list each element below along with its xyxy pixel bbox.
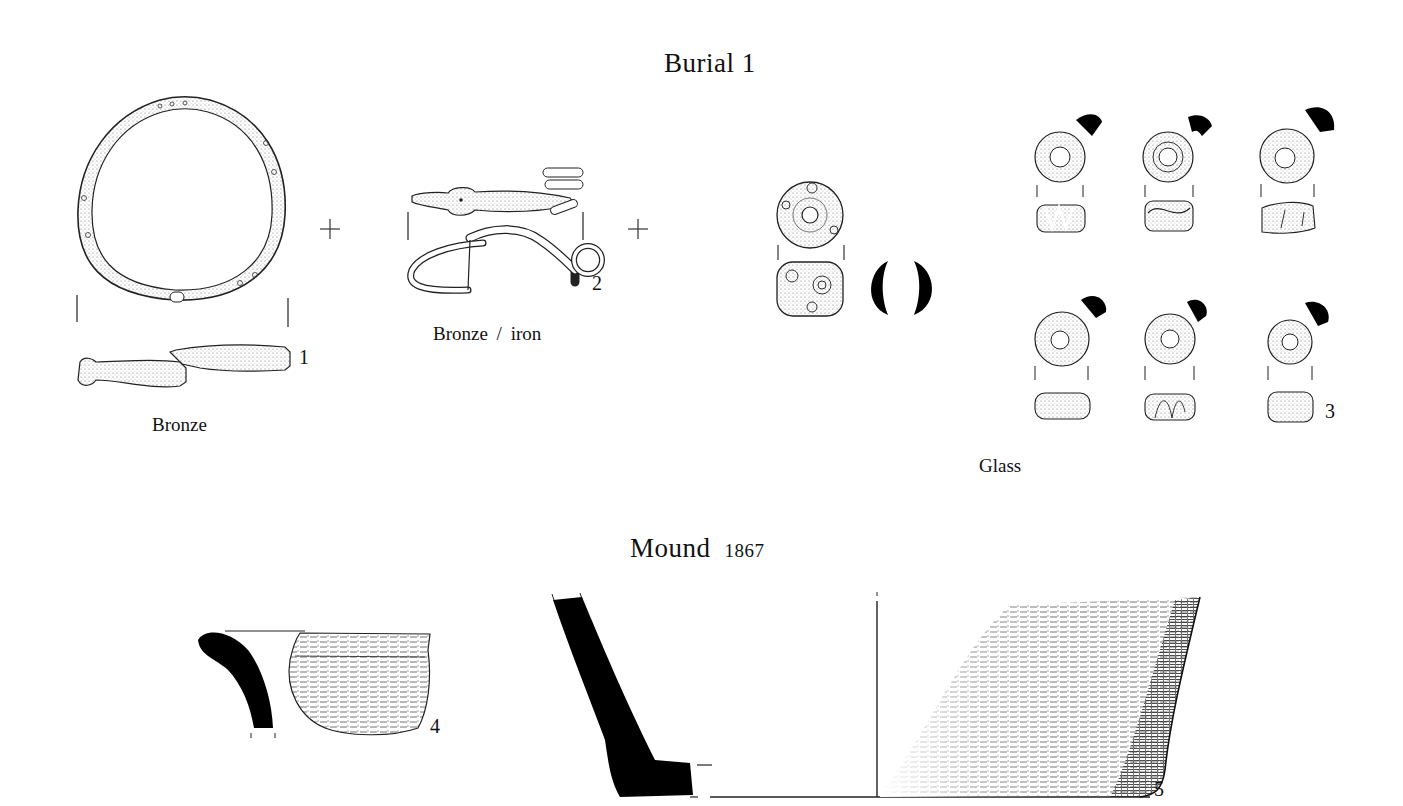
material-label-glass: Glass: [979, 455, 1021, 477]
bead: [1260, 107, 1334, 233]
material-label-bronze: Bronze: [152, 414, 207, 436]
bead: [1145, 300, 1207, 420]
rim-sherd-drawing: [198, 631, 430, 738]
bead: [1143, 115, 1212, 231]
item-number-5: 5: [1154, 778, 1164, 801]
plus-sign: [628, 219, 648, 239]
plus-sign: [320, 219, 340, 239]
bracelet-drawing: [77, 97, 290, 387]
plate-drawings: [0, 0, 1403, 806]
brooch-drawing: [408, 168, 602, 290]
bead: [1035, 114, 1102, 232]
small-beads-drawing: [1035, 107, 1334, 422]
bead: [1268, 302, 1329, 422]
item-number-4: 4: [430, 715, 440, 738]
eye-bead-drawing: [777, 182, 932, 316]
item-number-1: 1: [299, 346, 309, 369]
base-sherd-drawing: [552, 592, 1200, 797]
item-number-3: 3: [1325, 400, 1335, 423]
bead: [1035, 296, 1106, 419]
item-number-2: 2: [592, 272, 602, 295]
material-label-bronze-iron: Bronze / iron: [433, 323, 541, 345]
